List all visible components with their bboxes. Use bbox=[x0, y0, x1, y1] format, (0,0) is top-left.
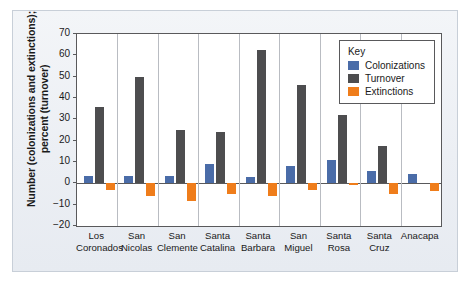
y-tick-label: −10 bbox=[53, 198, 70, 209]
x-axis-label: LosCoronados bbox=[76, 230, 116, 254]
bar-turnover bbox=[297, 85, 306, 183]
y-tick-label: 50 bbox=[59, 70, 70, 81]
x-axis-label-line1: Santa bbox=[205, 230, 230, 241]
x-axis-label-line2: Cruz bbox=[359, 242, 399, 254]
bar-extinctions bbox=[187, 183, 196, 201]
x-axis-label-line2: Catalina bbox=[197, 242, 237, 254]
legend-label: Colonizations bbox=[365, 60, 425, 71]
x-axis-label-line1: Los bbox=[88, 230, 103, 241]
legend-label: Extinctions bbox=[365, 86, 413, 97]
bar-group bbox=[279, 34, 319, 226]
y-axis-title-line2: percent (turnover) bbox=[38, 9, 51, 209]
bar-colonizations bbox=[408, 174, 417, 184]
x-axis-label-line2: Miguel bbox=[278, 242, 318, 254]
x-axis-label: SantaRosa bbox=[319, 230, 359, 254]
bar-group bbox=[77, 34, 117, 226]
bar-extinctions bbox=[146, 183, 155, 196]
x-axis-label: SantaBarbara bbox=[238, 230, 278, 254]
legend-label: Turnover bbox=[365, 73, 405, 84]
plot-area: 706050403020100−10−20 Key ColonizationsT… bbox=[76, 33, 442, 227]
x-axis-label-line2: Rosa bbox=[319, 242, 359, 254]
bar-turnover bbox=[257, 50, 266, 183]
y-axis-title: Number (colonizations and extinctions); … bbox=[25, 9, 51, 209]
legend-entry: Extinctions bbox=[348, 86, 425, 97]
x-axis-label: SanClemente bbox=[157, 230, 197, 254]
x-axis-label: SantaCatalina bbox=[197, 230, 237, 254]
x-axis-label-line2: Coronados bbox=[76, 242, 116, 254]
bar-colonizations bbox=[205, 164, 214, 183]
x-axis-label-line2: Nicolas bbox=[116, 242, 156, 254]
y-tick-label: 40 bbox=[59, 91, 70, 102]
legend-title: Key bbox=[348, 46, 425, 57]
x-axis-label-line2: Clemente bbox=[157, 242, 197, 254]
legend-entry: Colonizations bbox=[348, 60, 425, 71]
y-tick-label: 30 bbox=[59, 112, 70, 123]
x-axis-label-line2: Barbara bbox=[238, 242, 278, 254]
bar-extinctions bbox=[227, 183, 236, 194]
bar-colonizations bbox=[165, 176, 174, 183]
bar-turnover bbox=[338, 115, 347, 183]
x-axis-label: Anacapa bbox=[400, 230, 440, 242]
x-axis-label-line1: Santa bbox=[326, 230, 351, 241]
bar-turnover bbox=[216, 132, 225, 183]
bar-extinctions bbox=[430, 183, 439, 190]
legend-swatch-icon bbox=[348, 87, 359, 96]
bar-turnover bbox=[378, 146, 387, 183]
x-axis-label-line1: San bbox=[169, 230, 186, 241]
bar-extinctions bbox=[349, 183, 358, 184]
legend-entry: Turnover bbox=[348, 73, 425, 84]
legend-swatch-icon bbox=[348, 61, 359, 70]
bar-group bbox=[198, 34, 238, 226]
y-tick-label: −20 bbox=[53, 219, 70, 230]
y-tick-label: 70 bbox=[59, 27, 70, 38]
bar-extinctions bbox=[106, 183, 115, 189]
y-tick-label: 10 bbox=[59, 155, 70, 166]
bar-group bbox=[158, 34, 198, 226]
x-axis-label: SanNicolas bbox=[116, 230, 156, 254]
bar-colonizations bbox=[124, 176, 133, 183]
y-tick-label: 60 bbox=[59, 48, 70, 59]
legend-swatch-icon bbox=[348, 74, 359, 83]
y-axis-title-line1: Number (colonizations and extinctions); bbox=[25, 11, 37, 207]
x-axis-label: SantaCruz bbox=[359, 230, 399, 254]
bar-extinctions bbox=[389, 183, 398, 194]
y-tick-label: 20 bbox=[59, 134, 70, 145]
bar-colonizations bbox=[367, 171, 376, 184]
bar-colonizations bbox=[246, 177, 255, 183]
bar-extinctions bbox=[268, 183, 277, 196]
bar-group bbox=[239, 34, 279, 226]
bar-colonizations bbox=[84, 176, 93, 183]
x-axis-labels: LosCoronadosSanNicolasSanClementeSantaCa… bbox=[76, 230, 442, 264]
x-axis-label-line1: Anacapa bbox=[401, 230, 439, 241]
y-tick-label: 0 bbox=[64, 176, 70, 187]
bar-turnover bbox=[95, 107, 104, 184]
x-axis-label: SanMiguel bbox=[278, 230, 318, 254]
bar-extinctions bbox=[308, 183, 317, 189]
bar-turnover bbox=[176, 130, 185, 183]
legend: Key ColonizationsTurnoverExtinctions bbox=[339, 40, 435, 104]
figure-root: Number (colonizations and extinctions); … bbox=[0, 0, 470, 288]
x-axis-label-line1: San bbox=[128, 230, 145, 241]
bar-turnover bbox=[135, 77, 144, 184]
x-axis-label-line1: Santa bbox=[367, 230, 392, 241]
legend-entries: ColonizationsTurnoverExtinctions bbox=[348, 60, 425, 97]
x-axis-label-line1: Santa bbox=[245, 230, 270, 241]
x-axis-label-line1: San bbox=[290, 230, 307, 241]
bar-colonizations bbox=[327, 160, 336, 183]
bar-group bbox=[117, 34, 157, 226]
bar-colonizations bbox=[286, 166, 295, 183]
